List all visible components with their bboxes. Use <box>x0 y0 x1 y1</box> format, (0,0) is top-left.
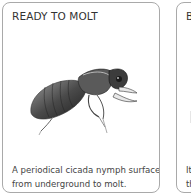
caption-line-2: from underground to molt. <box>12 177 160 191</box>
card-ready-to-molt[interactable]: READY TO MOLT A <box>2 2 160 193</box>
illustration-fragment <box>190 111 191 123</box>
caption-line-2: th <box>186 177 191 191</box>
card-caption: A periodical cicada nymph surfaces from … <box>12 163 160 191</box>
card-caption: It th <box>186 163 191 191</box>
card-partial[interactable]: B It th <box>176 2 191 193</box>
cicada-nymph-illustration <box>23 61 143 141</box>
card-title: READY TO MOLT <box>12 10 98 22</box>
caption-line-1: A periodical cicada nymph surfaces <box>12 163 160 177</box>
card-title: B <box>186 10 191 22</box>
caption-line-1: It <box>186 163 191 177</box>
